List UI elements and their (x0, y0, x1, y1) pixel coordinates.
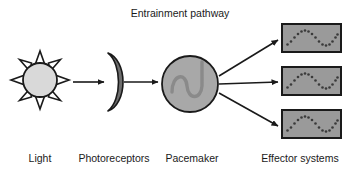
crescent-lens-icon (108, 53, 123, 111)
label-effector-systems: Effector systems (261, 152, 338, 164)
circadian-entrainment-diagram: Entrainment pathway Light Photoreceptors… (0, 0, 355, 171)
label-light: Light (29, 152, 52, 164)
figure-canvas: Entrainment pathway Light Photoreceptors… (0, 0, 355, 171)
sun-icon (11, 51, 69, 109)
label-photoreceptors: Photoreceptors (78, 152, 149, 164)
arrow-pacemaker-to-effector-3 (219, 93, 278, 126)
effector-box-1 (282, 24, 341, 52)
diagram-title: Entrainment pathway (131, 7, 230, 19)
label-pacemaker: Pacemaker (165, 152, 219, 164)
effector-box-3 (282, 110, 341, 138)
pacemaker-disc (162, 56, 218, 112)
oscillator-circle-icon (162, 56, 218, 112)
sun-disc (23, 63, 57, 97)
effector-box-2 (282, 67, 341, 95)
arrow-pacemaker-to-effector-2 (219, 82, 278, 84)
arrow-pacemaker-to-effector-1 (219, 40, 278, 76)
